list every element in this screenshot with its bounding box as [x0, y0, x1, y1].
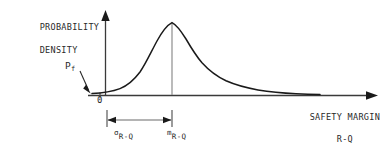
y-axis-arrowhead: [101, 10, 109, 21]
mean-label: mR-Q: [167, 127, 186, 141]
mean-subscript: R-Q: [172, 132, 186, 141]
x-axis-title-line1: SAFETY MARGIN: [310, 112, 380, 122]
y-axis-title: PROBABILITY DENSITY: [18, 10, 99, 68]
standard-deviation-label: σR-Q: [114, 127, 133, 141]
probability-density-figure: PROBABILITY DENSITY SAFETY MARGIN R-Q 0 …: [0, 0, 389, 153]
sigma-dimension-arrowhead-right: [163, 117, 172, 123]
sigma-subscript: R-Q: [119, 132, 133, 141]
y-axis-title-line1: PROBABILITY: [40, 22, 100, 32]
density-curve: [92, 23, 320, 95]
origin-label: 0: [97, 95, 103, 105]
x-axis-title: SAFETY MARGIN R-Q: [288, 101, 380, 153]
x-axis-arrowhead: [366, 91, 378, 99]
y-axis-title-line2: DENSITY: [40, 45, 78, 55]
failure-probability-subscript: f: [71, 65, 76, 73]
failure-probability-label: Pf: [65, 60, 76, 73]
sigma-dimension-arrowhead-left: [108, 117, 117, 123]
x-axis-title-line2: R-Q: [337, 134, 353, 144]
